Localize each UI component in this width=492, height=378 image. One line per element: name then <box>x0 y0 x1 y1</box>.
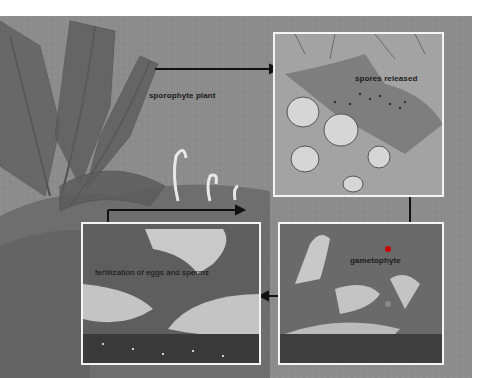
spore-cases-art <box>275 34 444 197</box>
fertilization-art <box>83 224 261 365</box>
label-gametophyte: gametophyte <box>350 256 401 265</box>
label-fertilization: fertilization of eggs and sperms <box>95 268 209 277</box>
label-sporophyte-plant: sporophyte plant <box>149 91 216 100</box>
fern-life-cycle-illustration: spores released fertilization of eggs an… <box>0 16 472 378</box>
fertilization-panel: fertilization of eggs and sperms <box>81 222 261 365</box>
gametophyte-art <box>280 224 444 365</box>
spores-panel: spores released <box>273 32 444 197</box>
gametophyte-panel: gametophyte <box>278 222 444 365</box>
label-spores-released: spores released <box>355 74 417 83</box>
